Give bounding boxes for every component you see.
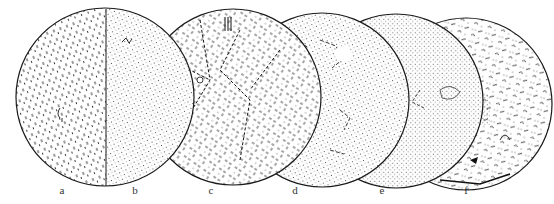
panel-label-b: b [132, 184, 138, 196]
panel-label-d: d [292, 184, 298, 196]
panel-a-b [16, 8, 196, 186]
panel-label-e: e [380, 184, 385, 196]
panel-label-f: f [464, 184, 468, 196]
panel-label-c: c [209, 184, 214, 196]
microstructure-figure [0, 0, 554, 204]
panel-label-a: a [60, 184, 65, 196]
